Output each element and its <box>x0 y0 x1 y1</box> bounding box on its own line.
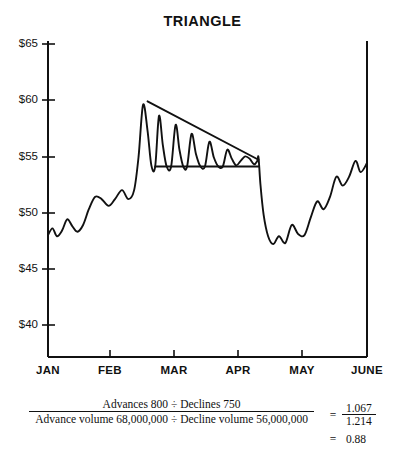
price-line <box>48 104 367 244</box>
chart-page: TRIANGLE $65 $60 $55 $50 $45 <box>0 0 405 470</box>
x-tick-label-may: MAY <box>280 364 324 376</box>
ratio-numerator: 1.067 <box>342 402 376 414</box>
y-tick-label-55: $55 <box>2 150 38 162</box>
x-tick-label-feb: FEB <box>88 364 132 376</box>
equals-sign-1: = <box>324 409 342 421</box>
y-tick-label-40: $40 <box>2 318 38 330</box>
formula-result-group: = 1.067 1.214 = 0.88 <box>324 402 376 445</box>
formula-numerator: Advances 800 ÷ Declines 750 <box>97 398 247 411</box>
formula-denominator: Advance volume 68,000,000 ÷ Decline volu… <box>29 411 314 425</box>
x-tick-label-june: JUNE <box>343 364 391 376</box>
equals-sign-2: = <box>324 433 342 445</box>
x-tick-label-mar: MAR <box>152 364 196 376</box>
main-fraction: Advances 800 ÷ Declines 750 Advance volu… <box>29 398 314 425</box>
formula-result: 0.88 <box>342 433 366 445</box>
formula-result-row: = 0.88 <box>324 433 376 445</box>
y-tick-label-50: $50 <box>2 206 38 218</box>
breadth-ratio-formula: Advances 800 ÷ Declines 750 Advance volu… <box>0 398 405 445</box>
x-tick-label-apr: APR <box>216 364 260 376</box>
ratio-fraction: 1.067 1.214 <box>342 402 376 427</box>
formula-ratio-row: = 1.067 1.214 <box>324 402 376 427</box>
ratio-denominator: 1.214 <box>342 414 376 427</box>
x-tick-label-jan: JAN <box>26 364 70 376</box>
y-tick-label-45: $45 <box>2 262 38 274</box>
y-tick-label-60: $60 <box>2 93 38 105</box>
y-tick-label-65: $65 <box>2 37 38 49</box>
